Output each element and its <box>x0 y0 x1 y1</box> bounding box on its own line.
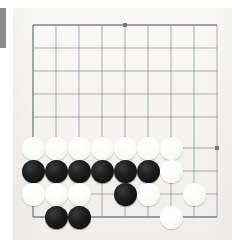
screenshot-root <box>0 0 232 240</box>
white-stone[interactable] <box>183 183 206 206</box>
white-stone[interactable] <box>68 183 91 206</box>
black-stone[interactable] <box>45 206 68 229</box>
white-stone[interactable] <box>45 183 68 206</box>
white-stone[interactable] <box>91 137 114 160</box>
black-stone[interactable] <box>91 160 114 183</box>
black-stone[interactable] <box>45 160 68 183</box>
black-stone[interactable] <box>68 206 91 229</box>
white-stone[interactable] <box>160 137 183 160</box>
white-stone[interactable] <box>68 137 91 160</box>
black-stone[interactable] <box>114 160 137 183</box>
white-stone[interactable] <box>114 137 137 160</box>
black-stone[interactable] <box>68 160 91 183</box>
star-point <box>123 23 127 27</box>
white-stone[interactable] <box>137 137 160 160</box>
black-stone[interactable] <box>114 183 137 206</box>
white-stone[interactable] <box>22 183 45 206</box>
black-stone[interactable] <box>137 160 160 183</box>
white-stone[interactable] <box>160 206 183 229</box>
black-stone[interactable] <box>22 160 45 183</box>
white-stone[interactable] <box>160 160 183 183</box>
star-point <box>215 146 219 150</box>
white-stone[interactable] <box>45 137 68 160</box>
white-stone[interactable] <box>22 137 45 160</box>
white-stone[interactable] <box>137 183 160 206</box>
